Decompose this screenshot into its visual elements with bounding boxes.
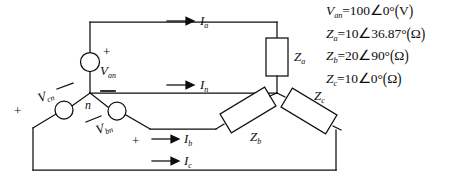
current-label-ib: Ib xyxy=(184,131,192,148)
current-arrow-ia xyxy=(167,17,194,25)
current-arrow-ic xyxy=(152,157,179,165)
impedance-label-zc: Zc xyxy=(314,88,325,105)
equation-zc: Zc=10∠0°(Ω) xyxy=(326,72,460,88)
current-label-in: In xyxy=(200,77,208,94)
wire-zc-upper-lead xyxy=(277,93,285,97)
parameter-list: Van=100∠0°(V) Za=10∠36.87°(Ω) Zb=20∠90°(… xyxy=(326,4,460,94)
wire-vbn-right-lead xyxy=(126,115,150,129)
polarity-plus-van: + xyxy=(103,44,110,60)
current-label-ic: Ic xyxy=(184,153,192,170)
current-label-ia: Ia xyxy=(200,13,208,30)
wire-vcn-left-lead xyxy=(33,114,56,128)
impedance-label-zb: Zb xyxy=(250,129,261,146)
source-label-van: Van xyxy=(100,63,116,80)
wire-zc-lower-lead xyxy=(333,126,341,130)
circuit-diagram-canvas: Ia In Ib Ic Van + Vcn + Vbn + n Za Zb Zc xyxy=(0,0,462,186)
wire-zb-lower-lead xyxy=(216,124,224,129)
source-vbn-symbol xyxy=(108,102,126,120)
equation-za: Za=10∠36.87°(Ω) xyxy=(326,27,460,43)
impedance-za-box xyxy=(266,38,288,76)
current-arrow-in xyxy=(167,81,194,89)
wire-vbn-left-lead xyxy=(90,93,108,107)
impedance-zb-box xyxy=(220,87,276,133)
equation-van: Van=100∠0°(V) xyxy=(326,4,460,20)
source-van-symbol xyxy=(81,53,100,72)
polarity-plus-vbn: + xyxy=(132,133,139,149)
source-vcn-symbol xyxy=(55,101,73,119)
node-label-n: n xyxy=(85,98,91,113)
current-arrow-ib xyxy=(152,135,179,143)
impedance-zc-box xyxy=(281,88,337,134)
impedance-label-za: Za xyxy=(294,49,305,66)
polarity-minus-vcn xyxy=(57,83,73,89)
equation-zb: Zb=20∠90°(Ω) xyxy=(326,49,460,65)
polarity-plus-vcn: + xyxy=(14,103,21,119)
